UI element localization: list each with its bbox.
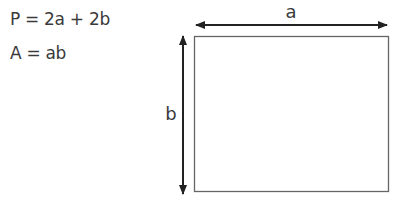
height-label: b: [165, 103, 176, 124]
rectangle-diagram: a b: [0, 0, 393, 205]
rectangle-shape: [195, 37, 389, 192]
width-label: a: [285, 1, 296, 22]
